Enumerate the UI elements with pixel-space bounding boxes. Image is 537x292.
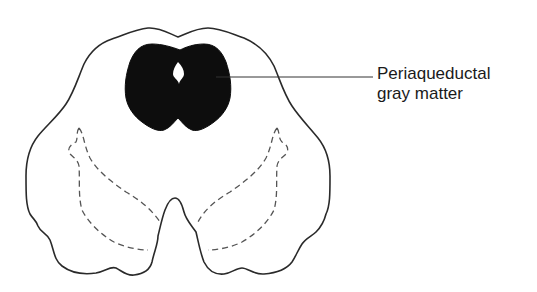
- structure-label: Periaqueductal gray matter: [377, 64, 490, 104]
- left-dashed-region: [69, 128, 160, 250]
- midbrain-diagram: Periaqueductal gray matter: [0, 0, 537, 292]
- diagram-canvas: [0, 0, 537, 292]
- label-line-1: Periaqueductal: [377, 64, 490, 84]
- periaqueductal-gray: [125, 44, 231, 131]
- right-dashed-region: [198, 128, 288, 250]
- label-line-2: gray matter: [377, 84, 490, 104]
